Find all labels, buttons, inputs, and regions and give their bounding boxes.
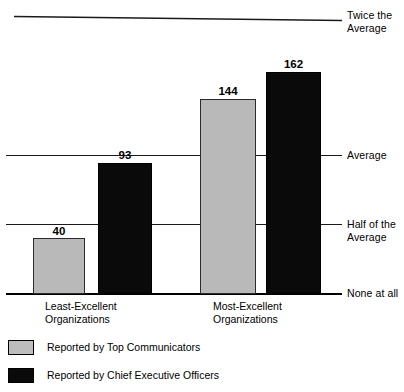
bar-most-excellent-top-communicators[interactable] bbox=[200, 99, 256, 294]
bar-chart: Twice the Average Average Half of the Av… bbox=[0, 0, 404, 392]
category-label-least-excellent: Least-Excellent Organizations bbox=[45, 300, 117, 325]
axis-label-none-at-all: None at all bbox=[347, 287, 398, 300]
bar-least-excellent-top-communicators[interactable] bbox=[33, 238, 85, 294]
category-label-most-excellent: Most-Excellent Organizations bbox=[213, 300, 282, 325]
bar-least-excellent-ceos[interactable] bbox=[98, 163, 152, 294]
bar-value-most-excellent-top-communicators: 144 bbox=[200, 85, 256, 97]
legend-label-ceos: Reported by Chief Executive Officers bbox=[47, 368, 219, 383]
bar-value-least-excellent-ceos: 93 bbox=[98, 149, 152, 161]
legend-label-top-communicators: Reported by Top Communicators bbox=[47, 340, 200, 355]
bar-value-least-excellent-top-communicators: 40 bbox=[33, 225, 85, 237]
axis-label-average: Average bbox=[347, 149, 387, 162]
gridline-twice-the-average-line bbox=[14, 12, 344, 24]
axis-label-half-of-the-average: Half of the Average bbox=[347, 218, 396, 243]
bar-most-excellent-ceos[interactable] bbox=[266, 72, 321, 294]
axis-label-twice-the-average: Twice the Average bbox=[347, 9, 392, 34]
legend-swatch-top-communicators bbox=[8, 340, 34, 355]
bar-value-most-excellent-ceos: 162 bbox=[266, 58, 321, 70]
legend-swatch-ceos bbox=[8, 368, 34, 383]
